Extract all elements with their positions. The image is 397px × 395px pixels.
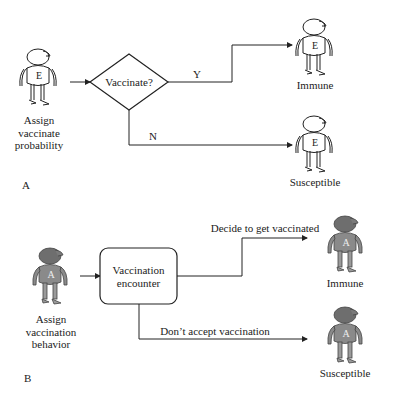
outcome-immune-a: Immune	[290, 79, 340, 92]
panel-letter-b: B	[24, 372, 31, 384]
vaccinate-branch-line	[177, 238, 307, 276]
process-label: Vaccination encounter	[100, 264, 177, 289]
agent-letter: E	[33, 70, 45, 83]
refuse-edge-label: Don’t accept vaccination	[160, 325, 270, 338]
agent-letter: A	[340, 328, 352, 341]
outcome-susceptible-a: Susceptible	[285, 176, 345, 189]
panel-letter-a: A	[22, 179, 30, 191]
source-label-a: Assign vaccinate probability	[8, 114, 70, 152]
decision-label: Vaccinate?	[94, 76, 164, 89]
no-label: N	[147, 130, 159, 143]
yes-branch-line	[168, 45, 292, 82]
agent-letter: A	[45, 269, 57, 282]
agent-letter: E	[309, 40, 321, 53]
vaccinate-edge-label: Decide to get vaccinated	[210, 222, 320, 235]
agent-letter: E	[309, 137, 321, 150]
source-label-b: Assign vaccination behavior	[16, 313, 86, 351]
outcome-immune-b: Immune	[320, 277, 370, 290]
outcome-susceptible-b: Susceptible	[315, 367, 375, 380]
agent-letter: A	[340, 237, 352, 250]
yes-label: Y	[191, 68, 203, 81]
